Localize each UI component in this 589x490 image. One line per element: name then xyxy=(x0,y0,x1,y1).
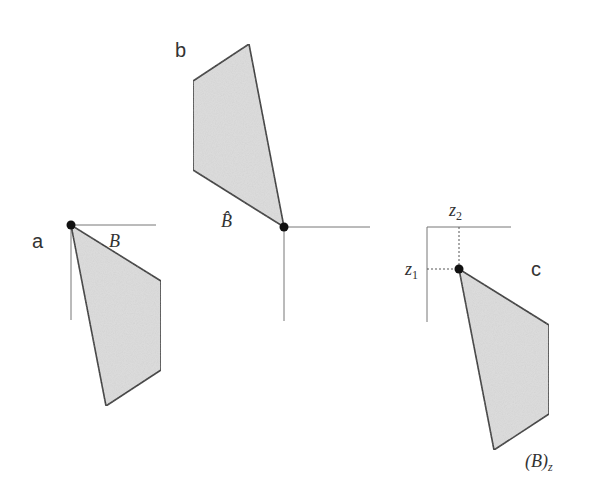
panel-b-set-label: B̂ xyxy=(221,211,232,231)
panel-c-label: c xyxy=(531,258,541,280)
panel-a-set-B xyxy=(71,225,161,406)
panel-a-set-label: B xyxy=(109,231,120,251)
panel-b-set-B-hat xyxy=(193,44,284,227)
panel-c-z2-label: z2 xyxy=(448,200,462,223)
panel-b: b B̂ xyxy=(175,39,370,321)
diagram-svg: a B b B̂ c z2 z1 (B)z xyxy=(0,0,589,490)
panel-c-z1-label: z1 xyxy=(404,259,418,282)
panel-c-set-B-translated xyxy=(459,269,549,450)
panel-a: a B xyxy=(32,221,161,407)
panel-c-point-dot xyxy=(455,265,464,274)
panel-a-label: a xyxy=(32,230,44,252)
panel-b-origin-dot xyxy=(280,223,289,232)
panel-b-label: b xyxy=(175,39,186,61)
panel-c-set-label: (B)z xyxy=(525,451,553,474)
diagram-canvas: a B b B̂ c z2 z1 (B)z xyxy=(0,0,589,490)
panel-a-origin-dot xyxy=(67,221,76,230)
panel-c: c z2 z1 (B)z xyxy=(404,200,553,474)
